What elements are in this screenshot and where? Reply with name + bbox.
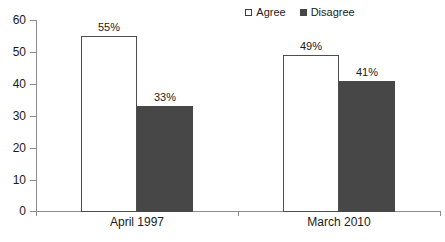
y-tick-label: 20: [0, 142, 26, 154]
legend-swatch-disagree-icon: [300, 9, 307, 16]
plot-area: 55%33%49%41%: [36, 20, 440, 212]
bar-value-label: 49%: [283, 41, 339, 52]
bar-chart: Agree Disagree 60 50 40 30 20 10 0 55%33…: [0, 0, 445, 242]
bar-disagree-2: [339, 81, 395, 212]
x-category-label-1: April 1997: [36, 216, 238, 229]
bar-value-label: 41%: [339, 67, 395, 78]
y-tick-label: 0: [0, 205, 26, 217]
chart-legend: Agree Disagree: [0, 4, 445, 20]
x-category-label-2: March 2010: [238, 216, 440, 229]
bar-disagree-1: [137, 106, 193, 212]
legend-entry-disagree: Disagree: [300, 7, 355, 18]
y-tick-label: 30: [0, 110, 26, 122]
legend-label-agree: Agree: [256, 7, 285, 18]
bar-agree-1: [81, 36, 137, 212]
y-tick-label: 60: [0, 14, 26, 26]
legend-entry-agree: Agree: [245, 7, 285, 18]
bar-value-label: 55%: [81, 22, 137, 33]
y-tick-label: 40: [0, 78, 26, 90]
legend-label-disagree: Disagree: [311, 7, 355, 18]
bar-value-label: 33%: [137, 92, 193, 103]
legend-swatch-agree-icon: [245, 9, 252, 16]
x-axis-separator: [440, 211, 441, 216]
y-tick-label: 50: [0, 46, 26, 58]
bar-agree-2: [283, 55, 339, 212]
y-tick-label: 10: [0, 174, 26, 186]
